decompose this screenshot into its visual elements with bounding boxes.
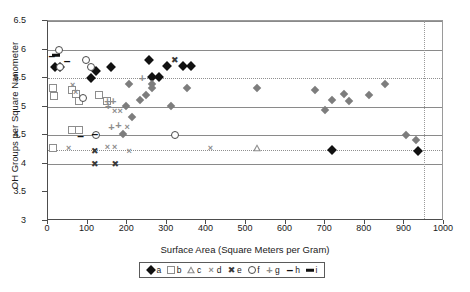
- data-point-d: ×: [125, 122, 130, 131]
- reference-line-horizontal: [48, 150, 442, 151]
- x-tick-mark: [87, 220, 88, 224]
- data-point-small-diamond-cluster: [125, 80, 133, 88]
- data-point-small-diamond-cluster: [136, 96, 144, 104]
- legend-item-e: ✖e: [227, 265, 241, 275]
- data-point-f: [79, 94, 87, 102]
- data-point-b: [75, 97, 83, 105]
- bar-icon: [306, 266, 314, 274]
- data-point-small-diamond-cluster: [345, 97, 353, 105]
- legend-label: b: [177, 265, 182, 275]
- legend-item-b: b: [167, 265, 181, 275]
- open-triangle-icon: [187, 266, 195, 274]
- reference-line-horizontal: [48, 78, 442, 79]
- data-point-h: –: [64, 55, 71, 67]
- data-point-small-diamond-cluster: [412, 136, 420, 144]
- data-point-d: ×: [117, 107, 122, 116]
- legend-item-c: c: [187, 265, 201, 275]
- y-axis-label: OH Groups per Square Nanometer: [9, 16, 20, 216]
- x-tick-label: 800: [342, 224, 386, 233]
- open-circle-icon: [248, 266, 256, 274]
- x-tick-label: 600: [263, 224, 307, 233]
- x-tick-mark: [126, 220, 127, 224]
- y-tick-label: 3: [0, 216, 26, 225]
- y-tick-mark: [42, 20, 47, 21]
- data-point-a: [106, 62, 116, 72]
- data-point-f: [82, 56, 90, 64]
- x-tick-mark: [205, 220, 206, 224]
- data-point-a: [144, 55, 154, 65]
- data-point-d: ×: [66, 143, 71, 152]
- x-tick-mark: [443, 220, 444, 224]
- reference-line-vertical: [424, 21, 425, 219]
- y-tick-mark: [42, 106, 47, 107]
- gridline: [48, 164, 442, 165]
- data-point-e: ✖: [91, 146, 99, 155]
- data-point-a: [154, 72, 164, 82]
- data-point-a: [55, 62, 65, 72]
- y-tick-mark: [42, 163, 47, 164]
- legend-label: e: [237, 265, 242, 275]
- legend-item-a: a: [147, 265, 161, 275]
- chart-root: ××××××××××✖✖✖✖++++++–––– 33.544.555.566.…: [0, 0, 470, 292]
- data-point-small-diamond-cluster: [148, 80, 156, 88]
- x-tick-mark: [403, 220, 404, 224]
- x-tick-label: 500: [223, 224, 267, 233]
- data-point-b: [68, 86, 76, 94]
- data-point-b: [49, 84, 57, 92]
- filled-diamond-icon: [147, 266, 155, 274]
- x-tick-label: 100: [65, 224, 109, 233]
- data-point-g: +: [108, 121, 114, 132]
- x-axis-label: Surface Area (Square Meters per Gram): [47, 244, 443, 255]
- legend-item-g: +g: [266, 265, 280, 275]
- legend-item-h: –h: [286, 265, 300, 275]
- data-point-d: ×: [112, 107, 117, 116]
- data-point-b: [72, 90, 80, 98]
- data-point-d: ×: [70, 81, 75, 90]
- data-point-small-diamond-cluster: [340, 90, 348, 98]
- data-point-a: [91, 66, 101, 76]
- legend-item-f: f: [248, 265, 260, 275]
- x-tick-mark: [47, 220, 48, 224]
- gridline: [48, 135, 442, 136]
- x-tick-mark: [166, 220, 167, 224]
- data-point-g: +: [105, 100, 111, 111]
- x-tick-label: 900: [381, 224, 425, 233]
- gridline: [48, 21, 442, 22]
- legend-label: c: [197, 265, 201, 275]
- data-point-small-diamond-cluster: [122, 101, 130, 109]
- legend-label: d: [217, 265, 222, 275]
- x-tick-label: 300: [144, 224, 188, 233]
- data-point-a: [413, 146, 423, 156]
- data-point-d: ×: [208, 143, 213, 152]
- data-point-h: –: [49, 50, 56, 62]
- data-point-h: –: [91, 128, 98, 140]
- y-tick-mark: [42, 77, 47, 78]
- legend-label: i: [316, 265, 318, 275]
- data-point-f: [56, 63, 64, 71]
- data-point-b: [49, 144, 57, 152]
- gridline: [48, 107, 442, 108]
- dash-icon: –: [286, 266, 294, 274]
- y-tick-mark: [42, 49, 47, 50]
- x-tick-label: 700: [302, 224, 346, 233]
- chart-legend: abc×d✖ef+g–hi: [139, 262, 325, 278]
- data-point-g: +: [104, 96, 110, 107]
- data-point-f: [87, 63, 95, 71]
- data-point-small-diamond-cluster: [148, 84, 156, 92]
- data-point-small-diamond-cluster: [253, 84, 261, 92]
- data-point-g: +: [115, 120, 121, 131]
- legend-item-i: i: [306, 265, 317, 275]
- plot-area: ××××××××××✖✖✖✖++++++––––: [47, 20, 443, 220]
- gridline: [48, 50, 442, 51]
- data-point-small-diamond-cluster: [311, 85, 319, 93]
- data-point-small-diamond-cluster: [128, 113, 136, 121]
- data-point-small-diamond-cluster: [119, 130, 127, 138]
- y-tick-mark: [42, 134, 47, 135]
- data-point-g: +: [110, 96, 116, 107]
- x-tick-mark: [285, 220, 286, 224]
- data-point-b: [50, 92, 58, 100]
- data-point-a: [50, 62, 60, 72]
- legend-label: a: [157, 265, 162, 275]
- data-point-small-diamond-cluster: [328, 96, 336, 104]
- data-point-b: [68, 126, 76, 134]
